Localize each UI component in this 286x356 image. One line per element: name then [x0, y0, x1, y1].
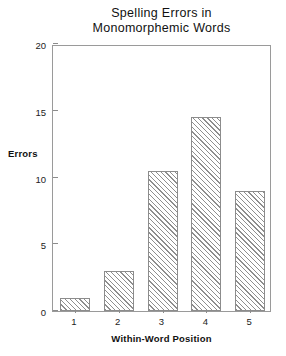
bar [148, 171, 178, 311]
bar [235, 191, 265, 311]
bar-series [53, 46, 270, 311]
x-tick-label: 4 [203, 316, 208, 327]
y-tick-label: 0 [41, 307, 46, 318]
chart-title: Spelling Errors in Monomorphemic Words [52, 6, 271, 36]
bar [60, 298, 90, 311]
chart-title-line-2: Monomorphemic Words [52, 21, 271, 36]
y-tick-label: 15 [35, 106, 46, 117]
y-tick-label: 10 [35, 173, 46, 184]
bar [191, 117, 221, 311]
plot-area [52, 45, 271, 312]
chart-title-line-1: Spelling Errors in [52, 6, 271, 21]
bar [104, 271, 134, 311]
chart-figure: Spelling Errors in Monomorphemic Words E… [0, 0, 286, 356]
y-tick [53, 43, 58, 44]
y-tick-label: 5 [41, 240, 46, 251]
x-tick-label: 1 [71, 316, 76, 327]
x-axis-title: Within-Word Position [52, 333, 271, 344]
y-tick-label: 20 [35, 40, 46, 51]
x-tick-label: 2 [115, 316, 120, 327]
x-axis-tick-labels: 12345 [52, 316, 271, 330]
x-tick-label: 5 [246, 316, 251, 327]
x-tick-label: 3 [159, 316, 164, 327]
y-axis-title: Errors [8, 148, 52, 159]
